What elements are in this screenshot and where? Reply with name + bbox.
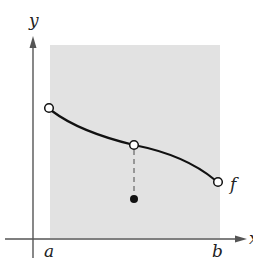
function-label-f: f — [228, 174, 239, 194]
left-endpoint-open-circle — [45, 104, 54, 113]
y-axis-label: y — [28, 10, 39, 30]
y-axis-arrow-icon — [30, 36, 37, 48]
graph-figure: y x a b f — [0, 0, 253, 265]
isolated-filled-dot — [130, 195, 138, 203]
x-axis-label: x — [249, 228, 253, 248]
right-endpoint-open-circle — [214, 178, 223, 187]
hole-open-circle — [130, 141, 139, 150]
label-b: b — [212, 241, 223, 261]
label-a: a — [44, 241, 54, 261]
x-axis-arrow-icon — [235, 236, 247, 243]
